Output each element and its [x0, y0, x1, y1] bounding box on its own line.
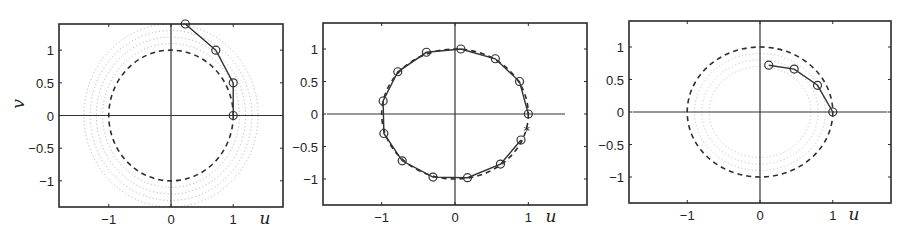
y-tick-label: −0.5 — [28, 141, 54, 156]
trajectory-line — [769, 65, 833, 112]
plot-area — [633, 21, 888, 203]
y-tick-label: −1 — [39, 174, 54, 189]
y-tick-label: 1 — [311, 42, 318, 57]
y-tick-label: 0 — [47, 109, 54, 124]
x-tick-label: −1 — [101, 212, 116, 227]
y-tick-label: 1 — [47, 43, 54, 58]
x-axis-label: u — [849, 204, 860, 224]
x-tick-label: 1 — [525, 210, 532, 225]
y-tick-label: −0.5 — [292, 140, 318, 155]
y-tick-label: −1 — [303, 172, 318, 187]
y-tick-label: 0.5 — [36, 76, 54, 91]
figure: −10110.50−0.5−1uv *−10110.50−0.5−1u −101… — [0, 0, 914, 240]
x-tick-label: 1 — [230, 212, 237, 227]
y-tick-label: 0.5 — [606, 73, 624, 88]
y-tick-label: 0.5 — [300, 75, 318, 90]
x-tick-label: 1 — [829, 208, 836, 223]
trajectory-line — [185, 24, 233, 116]
plot-area — [327, 23, 565, 205]
y-axis-label: v — [8, 99, 28, 109]
plot-area — [59, 24, 283, 207]
x-axis-label: u — [546, 206, 557, 226]
star-marker-icon: * — [524, 123, 531, 138]
x-tick-label: 0 — [756, 208, 763, 223]
x-tick-label: −1 — [680, 208, 695, 223]
y-tick-label: −0.5 — [598, 138, 624, 153]
y-tick-label: 1 — [617, 40, 624, 55]
panel-left: −10110.50−0.5−1uv — [8, 20, 283, 228]
y-tick-label: 0 — [311, 107, 318, 122]
y-tick-label: 0 — [617, 105, 624, 120]
y-tick-label: −1 — [609, 170, 624, 185]
panel-middle: *−10110.50−0.5−1u — [292, 23, 587, 226]
x-tick-label: 0 — [167, 212, 174, 227]
panel-right: −10110.50−0.5−1u — [598, 21, 891, 224]
x-tick-label: −1 — [374, 210, 389, 225]
x-tick-label: 0 — [451, 210, 458, 225]
x-axis-label: u — [260, 208, 271, 228]
